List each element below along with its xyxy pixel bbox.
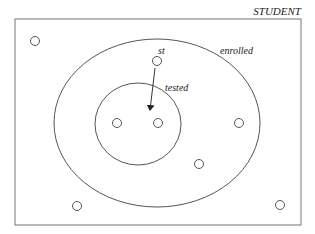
element-circle	[154, 119, 163, 128]
tested-set	[95, 83, 181, 165]
st-label: st	[158, 45, 165, 56]
enrolled-label: enrolled	[220, 45, 254, 56]
element-circle	[31, 37, 40, 46]
element-circle	[235, 119, 244, 128]
element-circle	[195, 160, 204, 169]
element-circle	[73, 202, 82, 211]
st-arrow	[150, 68, 155, 110]
tested-label: tested	[165, 82, 189, 93]
venn-diagram: STUDENT enrolled tested st	[0, 0, 315, 234]
universe-label: STUDENT	[253, 5, 302, 17]
element-circle	[113, 119, 122, 128]
elements	[31, 37, 285, 211]
element-circle-st	[153, 57, 162, 66]
element-circle	[276, 201, 285, 210]
